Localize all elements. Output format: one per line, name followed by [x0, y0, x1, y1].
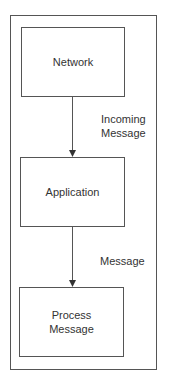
arrowhead-icon [69, 150, 76, 157]
edge-application-to-process [69, 227, 76, 287]
edge-label-message: Message [100, 254, 145, 268]
edge-network-to-application [69, 97, 76, 157]
arrowhead-icon [69, 280, 76, 287]
edge-label-incoming-message: Incoming Message [101, 112, 161, 140]
edges-layer [0, 0, 169, 373]
